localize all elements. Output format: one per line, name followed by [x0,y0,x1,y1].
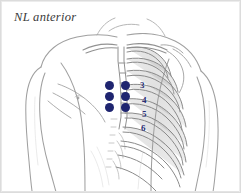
reflex-point-marker [105,92,114,101]
rib-label-6: 6 [141,124,146,133]
reflex-point-marker [105,103,114,112]
figure-title: NL anterior [14,10,76,25]
nipple-mark [77,97,80,100]
reflex-point-marker [121,92,130,101]
anatomy-figure: NL anterior 3 4 5 6 [0,0,241,193]
rib-label-5: 5 [142,110,147,119]
rib-label-4: 4 [142,96,147,105]
reflex-point-marker [105,81,114,90]
rib-label-3: 3 [140,81,145,90]
reflex-point-marker [121,81,130,90]
reflex-point-marker [121,103,130,112]
